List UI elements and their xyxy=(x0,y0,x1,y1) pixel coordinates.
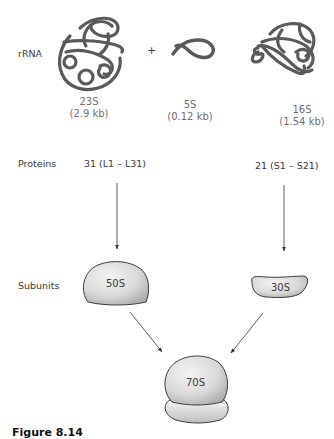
plus-sign: + xyxy=(147,44,156,57)
subunit-50s-label: 50S xyxy=(106,278,125,289)
rrna-16s-name: 16S xyxy=(272,104,332,116)
figure-caption: Figure 8.14 xyxy=(12,426,83,439)
rrna-23s-name: 23S xyxy=(62,96,116,108)
arrow-30s-to-70s xyxy=(231,313,263,353)
rrna-5s-size: (0.12 kb) xyxy=(160,111,220,123)
rrna-23s-icon xyxy=(60,18,123,89)
rrna-row-label: rRNA xyxy=(18,48,42,59)
subunit-30s-label: 30S xyxy=(271,282,290,293)
rrna-5s-icon xyxy=(173,40,213,57)
arrow-50s-to-70s xyxy=(130,312,162,352)
proteins-row-label: Proteins xyxy=(18,158,56,169)
ribosome-70s-label: 70S xyxy=(186,377,205,388)
rrna-16s-size: (1.54 kb) xyxy=(272,116,332,128)
rrna-5s-name: 5S xyxy=(160,99,220,111)
rrna-23s-size-text: (2.9 kb) xyxy=(62,108,116,120)
subunits-row-label: Subunits xyxy=(18,280,59,291)
large-subunit-proteins: 31 (L1 – L31) xyxy=(84,158,146,169)
ribosome-70s-shape xyxy=(165,356,228,423)
small-subunit-proteins: 21 (S1 – S21) xyxy=(255,160,319,171)
rrna-16s-icon xyxy=(252,24,313,74)
